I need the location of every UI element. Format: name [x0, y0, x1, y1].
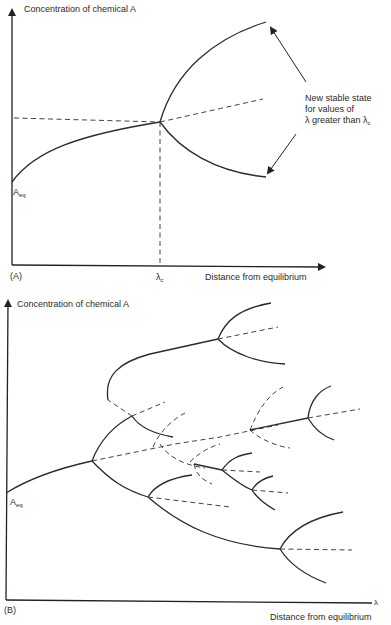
annotation-line-3-sub: c: [368, 120, 371, 126]
panel-b-cluster2-upper: [252, 476, 273, 490]
panel-b-y-axis-label: Concentration of chemical A: [17, 299, 129, 310]
panel-b-y-axis: [6, 301, 8, 600]
annotation-line-2: for values of: [305, 104, 372, 115]
aeq-sub: eq: [19, 192, 26, 198]
panel-b-branch-upper-1b: [132, 416, 173, 437]
panel-b-lower-long: [148, 497, 280, 549]
panel-b-far-right-dash: [308, 409, 360, 418]
panel-a-annotation-arrow-lower: [268, 134, 296, 173]
panel-b-bottom-upper: [280, 512, 343, 549]
panel-b-dash-upper-1: [132, 402, 165, 416]
panel-b-far-right-upper: [308, 386, 331, 418]
panel-a-y-axis-label: Concentration of chemical A: [24, 4, 136, 15]
panel-b-x-axis: [6, 600, 372, 603]
panel-a-horizontal-reference: [14, 118, 160, 122]
panel-b-lower-dash: [148, 497, 230, 507]
panel-a: [12, 10, 324, 267]
panel-b-dash-upper-1c: [108, 400, 132, 416]
panel-a-upper-branch: [160, 22, 266, 122]
panel-b-bottom-lower: [280, 549, 326, 583]
panel-a-stable-branch: [12, 122, 160, 182]
panel-b-mid-dash-up: [153, 413, 185, 447]
panel-b-lower-branch-1: [92, 461, 148, 497]
aeq-b-sub: eq: [16, 502, 23, 508]
annotation-line-3-main: λ greater than λ: [305, 115, 368, 125]
panel-a-unstable-branch: [160, 99, 263, 122]
panel-a-annotation-arrow-upper: [271, 28, 306, 82]
panel-b-right-solid: [250, 418, 308, 430]
panel-b-upper-loop: [107, 339, 218, 400]
panel-b-cluster2-lower: [252, 490, 275, 510]
panel-b-panel-label: (B): [4, 605, 16, 616]
panel-b-cluster-dash: [222, 470, 260, 472]
panel-b-lambda-symbol: λ: [374, 597, 378, 608]
panel-b-lower-upper: [148, 475, 192, 497]
panel-b-top-dash: [218, 327, 278, 339]
panel-b: [6, 301, 372, 603]
panel-a-annotation: New stable state for values of λ greater…: [305, 93, 372, 129]
panel-b-x-axis-label: Distance from equilibrium: [270, 612, 372, 623]
annotation-line-3: λ greater than λc: [305, 115, 372, 129]
panel-b-trunk: [6, 461, 92, 493]
annotation-line-1: New stable state: [305, 93, 372, 104]
lambda-c-sub: c: [161, 277, 164, 283]
panel-b-cluster-lower: [222, 470, 252, 490]
panel-b-far-right-lower: [308, 418, 334, 440]
panel-b-aeq-label: Aeq: [10, 497, 23, 511]
panel-a-lambda-c-label: λc: [156, 272, 164, 286]
panel-a-x-axis-label: Distance from equilibrium: [205, 272, 307, 283]
panel-b-right-dash-down: [250, 430, 290, 448]
panel-a-aeq-label: Aeq: [13, 187, 26, 201]
panel-a-panel-label: (A): [10, 271, 22, 282]
panel-b-top-lower: [218, 339, 285, 364]
panel-a-lower-branch: [160, 122, 266, 177]
panel-b-cluster2-dash: [252, 490, 288, 493]
panel-a-x-axis: [12, 265, 324, 267]
panel-b-cluster-upper: [222, 453, 252, 470]
panel-b-cluster-dash-up: [190, 444, 220, 462]
panel-b-bottom-dash: [280, 549, 352, 550]
